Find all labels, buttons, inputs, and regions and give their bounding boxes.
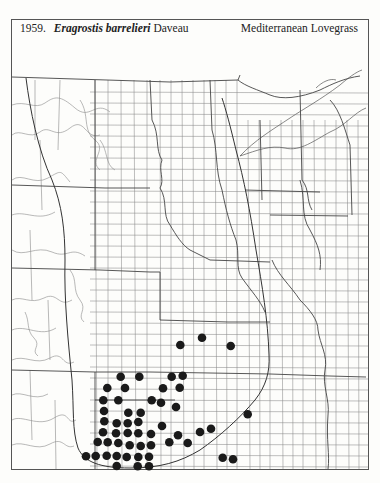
occurrence-dot — [112, 452, 121, 461]
occurrence-dot — [124, 408, 133, 417]
occurrence-dot — [134, 453, 143, 462]
occurrence-dot — [99, 396, 108, 405]
occurrence-dot — [114, 439, 123, 448]
occurrence-dot — [157, 398, 166, 407]
occurrence-dot — [135, 372, 144, 381]
distribution-map — [0, 0, 380, 483]
occurrence-dot — [133, 462, 142, 471]
western-county-boundaries — [12, 80, 115, 469]
occurrence-dot — [196, 428, 205, 437]
occurrence-dot — [103, 438, 112, 447]
occurrence-dot — [134, 429, 143, 438]
occurrence-dot — [103, 384, 112, 393]
occurrence-dot — [229, 455, 238, 464]
occurrence-dot — [112, 462, 121, 471]
range-boundary-lines — [26, 78, 269, 468]
occurrence-dot — [116, 372, 125, 381]
occurrence-dot — [147, 396, 156, 405]
occurrence-dot — [112, 429, 121, 438]
occurrence-dot — [99, 428, 108, 437]
occurrence-dot — [145, 452, 154, 461]
occurrence-dot — [82, 452, 91, 461]
occurrence-dot — [165, 438, 174, 447]
occurrence-dot — [178, 371, 187, 380]
occurrence-dot — [183, 439, 192, 448]
occurrence-dot — [112, 419, 121, 428]
occurrence-dot — [147, 430, 156, 439]
occurrence-dot — [122, 453, 131, 462]
occurrence-dot — [123, 419, 132, 428]
occurrence-dot — [207, 424, 216, 433]
occurrence-dot — [226, 342, 235, 351]
occurrence-dot — [174, 431, 183, 440]
occurrence-dot — [175, 383, 184, 392]
occurrence-dot — [125, 441, 134, 450]
occurrence-dot — [172, 403, 181, 412]
occurrence-dot — [167, 372, 176, 381]
occurrence-dot — [136, 408, 145, 417]
occurrence-dot — [159, 384, 168, 393]
occurrence-dot — [100, 417, 109, 426]
occurrence-dot — [100, 407, 109, 416]
occurrence-dot — [121, 384, 130, 393]
occurrence-dot — [145, 462, 154, 471]
occurrence-dot — [136, 442, 145, 451]
occurrence-dot — [176, 341, 185, 350]
occurrence-dot — [91, 452, 100, 461]
occurrence-dot — [198, 333, 207, 342]
occurrence-dot — [243, 410, 252, 419]
occurrence-dot — [114, 396, 123, 405]
occurrence-dot — [134, 418, 143, 427]
occurrence-dot — [147, 441, 156, 450]
occurrence-dot — [102, 451, 111, 460]
occurrence-dot — [123, 429, 132, 438]
occurrence-dot — [218, 453, 227, 462]
occurrence-dot — [93, 438, 102, 447]
occurrence-dot — [158, 422, 167, 431]
